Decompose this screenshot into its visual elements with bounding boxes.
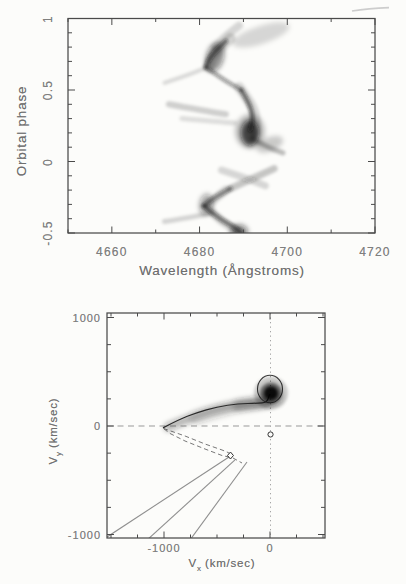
bottom-y-tick-label: 0 — [94, 420, 101, 432]
bottom-y-tick-label: 1000 — [73, 312, 101, 324]
top-x-tick-label: 4660 — [96, 245, 128, 259]
top-x-tick-label: 4720 — [359, 245, 391, 259]
bottom-y-tick-label: -1000 — [68, 529, 101, 541]
trailed-spectrogram-layer — [164, 17, 292, 238]
emission-spot-core — [264, 386, 278, 399]
roche-lobe-dashed-outline — [164, 428, 231, 457]
top-x-tick-label: 4700 — [272, 245, 304, 259]
top-y-tick-label: -0.5 — [41, 220, 55, 245]
top-y-tick-label: 1 — [41, 15, 55, 23]
top-panel-x-axis-title: Wavelength (Ångstroms) — [139, 263, 305, 278]
scan-artifact — [352, 8, 389, 11]
s-wave-segment — [209, 190, 237, 230]
vx-subscript: x — [197, 564, 201, 573]
top-y-tick-label: 0 — [41, 158, 55, 166]
vy-unit: (km/sec) — [47, 398, 59, 448]
figure: Orbital phase Wavelength (Ångstroms) Vy(… — [0, 0, 406, 584]
top-panel-y-axis-title: Orbital phase — [14, 86, 29, 177]
vx-unit: (km/sec) — [205, 557, 255, 569]
doppler-map-layer — [104, 313, 325, 540]
trajectory-ray — [190, 462, 247, 540]
s-wave-segment — [164, 213, 212, 222]
trajectory-ray — [104, 455, 232, 539]
s-wave-segment — [182, 119, 235, 123]
s-wave-segment — [164, 69, 203, 83]
s-wave-segment — [169, 104, 226, 114]
trajectory-ray — [147, 460, 235, 540]
bottom-x-tick-label: -1000 — [147, 542, 180, 554]
circle-marker — [268, 432, 273, 437]
top-x-tick-label: 4680 — [184, 245, 216, 259]
figure-canvas — [0, 0, 406, 584]
top-y-tick-label: 0.5 — [41, 80, 55, 100]
emission-spot — [254, 377, 288, 410]
vy-base: V — [47, 456, 59, 464]
vy-subscript: y — [54, 452, 63, 456]
bottom-panel-x-axis-title: Vx(km/sec) — [189, 557, 256, 572]
bottom-panel-y-axis-title: Vy(km/sec) — [47, 398, 62, 465]
bottom-x-tick-label: 0 — [266, 542, 273, 554]
